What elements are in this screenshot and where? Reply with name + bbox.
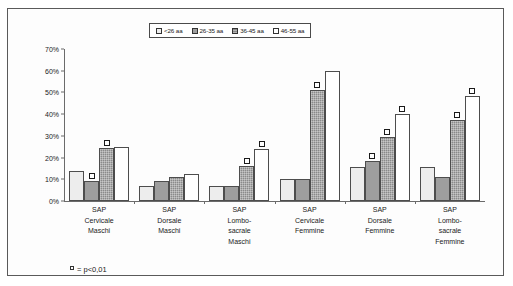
legend-item-1[interactable]: 26-35 aa	[192, 27, 224, 34]
bars-wrapper	[69, 49, 129, 201]
chart-legend: <26 aa26-35 aa36-45 aa46-55 aa	[149, 23, 311, 38]
legend-label: 36-45 aa	[240, 27, 264, 34]
bar[interactable]	[420, 167, 435, 201]
x-tick-mark	[275, 201, 276, 204]
x-tick-mark	[415, 201, 416, 204]
x-axis-label-0: SAPCervicaleMaschi	[64, 205, 134, 247]
bar-groups	[64, 49, 485, 201]
chart-frame: <26 aa26-35 aa36-45 aa46-55 aa 0%10%20%3…	[7, 8, 504, 276]
legend-label: 26-35 aa	[200, 27, 224, 34]
bar-group	[64, 49, 134, 201]
significance-marker-icon	[399, 106, 405, 112]
bar[interactable]	[295, 179, 310, 201]
significance-marker-icon	[384, 129, 390, 135]
x-axis-label-1: SAPDorsaleMaschi	[134, 205, 204, 247]
sig-square-icon	[70, 266, 74, 270]
legend-item-2[interactable]: 36-45 aa	[232, 27, 264, 34]
bar[interactable]	[139, 186, 154, 201]
bar[interactable]	[450, 120, 465, 201]
x-tick-mark	[204, 201, 205, 204]
x-axis-label-5: SAPLombo-sacraleFemmine	[415, 205, 485, 247]
legend-item-0[interactable]: <26 aa	[156, 27, 183, 34]
significance-marker-icon	[104, 140, 110, 146]
bar-group	[134, 49, 204, 201]
bar[interactable]	[310, 90, 325, 201]
bar[interactable]	[224, 186, 239, 201]
footnote: = p<0,01	[70, 265, 107, 274]
bar[interactable]	[254, 149, 269, 201]
bar-group	[345, 49, 415, 201]
significance-marker-icon	[454, 112, 460, 118]
bar[interactable]	[350, 167, 365, 201]
legend-label: 46-55 aa	[281, 27, 305, 34]
bar[interactable]	[184, 174, 199, 201]
x-axis-label-2: SAPLombo-sacraleMaschi	[204, 205, 274, 247]
legend-swatch-icon	[273, 28, 279, 34]
legend-swatch-icon	[156, 28, 162, 34]
bar[interactable]	[69, 171, 84, 201]
x-axis-label-3: SAPCervicaleFemmine	[275, 205, 345, 247]
x-tick-mark	[345, 201, 346, 204]
bar-group	[415, 49, 485, 201]
bar[interactable]	[169, 177, 184, 201]
bar[interactable]	[154, 181, 169, 201]
x-axis-label-4: SAPDorsaleFemmine	[345, 205, 415, 247]
plot-area: 0%10%20%30%40%50%60%70%	[64, 49, 485, 201]
bars-wrapper	[350, 49, 410, 201]
significance-marker-icon	[259, 141, 265, 147]
bars-wrapper	[209, 49, 269, 201]
bar[interactable]	[114, 147, 129, 201]
significance-marker-icon	[244, 158, 250, 164]
legend-label: <26 aa	[164, 27, 183, 34]
bars-wrapper	[139, 49, 199, 201]
footnote-text: = p<0,01	[77, 265, 107, 274]
bar[interactable]	[209, 186, 224, 201]
bar[interactable]	[465, 96, 480, 201]
bar[interactable]	[84, 181, 99, 201]
bar-group	[204, 49, 274, 201]
significance-marker-icon	[469, 88, 475, 94]
bar[interactable]	[435, 177, 450, 201]
bar-group	[275, 49, 345, 201]
bar[interactable]	[380, 137, 395, 201]
bar[interactable]	[99, 148, 114, 201]
bar[interactable]	[365, 161, 380, 201]
legend-item-3[interactable]: 46-55 aa	[273, 27, 305, 34]
x-axis-labels: SAPCervicaleMaschiSAPDorsaleMaschiSAPLom…	[64, 205, 485, 247]
bars-wrapper	[280, 49, 340, 201]
x-tick-mark	[134, 201, 135, 204]
legend-swatch-icon	[192, 28, 198, 34]
bars-wrapper	[420, 49, 480, 201]
bar[interactable]	[280, 179, 295, 201]
legend-swatch-icon	[232, 28, 238, 34]
significance-marker-icon	[369, 153, 375, 159]
bar[interactable]	[325, 71, 340, 201]
bar[interactable]	[239, 166, 254, 201]
significance-marker-icon	[314, 82, 320, 88]
bar[interactable]	[395, 114, 410, 201]
significance-marker-icon	[89, 173, 95, 179]
